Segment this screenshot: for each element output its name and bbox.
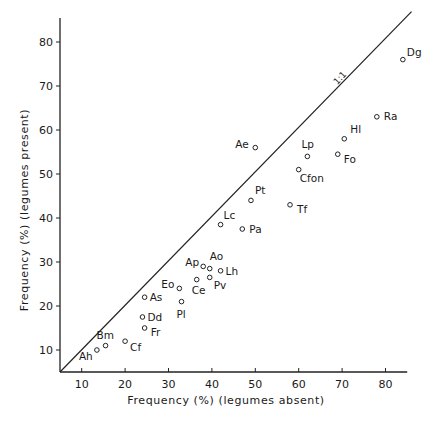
point-marker: [123, 339, 128, 344]
point-label: Ae: [235, 138, 248, 150]
y-tick-label: 20: [39, 300, 53, 313]
point-label: Fr: [151, 326, 161, 338]
point-marker: [177, 286, 182, 291]
point-label: As: [150, 291, 163, 303]
point-marker: [342, 137, 347, 142]
point-label: Pa: [249, 223, 261, 235]
chart-canvas: 10203040506070801020304050607080 1:1 AhB…: [0, 0, 436, 424]
y-tick-label: 50: [39, 168, 53, 181]
x-tick-label: 10: [75, 378, 89, 391]
data-point-bm: Bm: [97, 329, 114, 348]
point-label: Bm: [97, 329, 114, 341]
point-label: Dg: [407, 46, 422, 58]
x-tick-label: 50: [248, 378, 262, 391]
data-point-lh: Lh: [218, 265, 238, 277]
x-tick-label: 80: [379, 378, 393, 391]
y-tick-label: 70: [39, 80, 53, 93]
data-point-pt: Pt: [249, 184, 266, 202]
data-point-eo: Eo: [161, 278, 181, 290]
y-axis-label: Frequency (%) (legumes present): [18, 109, 31, 311]
data-point-tf: Tf: [288, 203, 308, 215]
point-label: Hl: [350, 123, 361, 135]
point-marker: [201, 264, 206, 269]
data-points: AhBmCfFrDdAsPlEoCePvApAoLhLcPaPtAeTfCfon…: [79, 46, 422, 362]
point-label: Ah: [79, 350, 93, 362]
data-point-cf: Cf: [123, 339, 142, 353]
point-marker: [249, 198, 254, 203]
x-tick-label: 40: [205, 378, 219, 391]
point-marker: [194, 277, 199, 282]
data-point-dd: Dd: [140, 311, 162, 323]
one-to-one-line: [60, 12, 412, 372]
point-marker: [218, 269, 223, 274]
data-point-fr: Fr: [142, 326, 161, 338]
scatter-chart: 10203040506070801020304050607080 1:1 AhB…: [0, 0, 436, 424]
point-marker: [288, 203, 293, 208]
y-tick-label: 10: [39, 344, 53, 357]
x-tick-label: 20: [118, 378, 132, 391]
point-marker: [253, 145, 258, 150]
point-marker: [207, 275, 212, 280]
point-marker: [335, 152, 340, 157]
one-to-one-label: 1:1: [331, 69, 348, 86]
point-label: Tf: [296, 203, 307, 215]
x-tick-label: 30: [162, 378, 176, 391]
point-label: Dd: [147, 311, 162, 323]
point-marker: [218, 222, 223, 227]
point-marker: [103, 343, 108, 348]
reference-line-1-1: 1:1: [60, 12, 412, 372]
data-point-dg: Dg: [401, 46, 422, 62]
data-point-pl: Pl: [177, 299, 186, 319]
point-label: Pl: [177, 308, 186, 320]
x-tick-label: 70: [335, 378, 349, 391]
point-marker: [401, 57, 406, 62]
point-marker: [142, 326, 147, 331]
data-point-lc: Lc: [218, 209, 235, 227]
point-marker: [142, 295, 147, 300]
point-marker: [240, 227, 245, 232]
data-point-ae: Ae: [235, 138, 257, 150]
point-label: Cfon: [300, 172, 324, 184]
point-marker: [179, 299, 184, 304]
point-label: Lp: [301, 138, 314, 150]
point-label: Ap: [185, 256, 199, 268]
point-label: Lc: [224, 209, 236, 221]
y-tick-label: 30: [39, 256, 53, 269]
point-label: Eo: [161, 278, 174, 290]
y-tick-label: 80: [39, 36, 53, 49]
y-tick-label: 60: [39, 124, 53, 137]
point-marker: [140, 315, 145, 320]
point-marker: [207, 266, 212, 271]
point-marker: [375, 115, 380, 120]
data-point-ap: Ap: [185, 256, 205, 268]
point-label: Ce: [192, 284, 206, 296]
data-point-pa: Pa: [240, 223, 262, 235]
y-tick-label: 40: [39, 212, 53, 225]
point-label: Lh: [226, 265, 239, 277]
data-point-fo: Fo: [335, 152, 355, 165]
data-point-ce: Ce: [192, 277, 206, 295]
data-point-ao: Ao: [207, 250, 223, 271]
data-point-hl: Hl: [342, 123, 361, 141]
data-point-ra: Ra: [375, 110, 398, 122]
data-point-pv: Pv: [207, 275, 226, 291]
data-point-as: As: [142, 291, 162, 303]
point-marker: [305, 154, 310, 159]
point-marker: [95, 348, 100, 353]
data-point-ah: Ah: [79, 348, 99, 362]
data-point-cfon: Cfon: [296, 167, 323, 183]
point-label: Cf: [130, 341, 141, 353]
x-axis-label: Frequency (%) (legumes absent): [127, 394, 324, 407]
point-label: Ra: [384, 110, 398, 122]
x-tick-label: 60: [292, 378, 306, 391]
point-label: Pt: [255, 184, 265, 196]
point-label: Pv: [214, 279, 227, 291]
data-point-lp: Lp: [301, 138, 314, 158]
point-label: Ao: [210, 250, 223, 262]
point-label: Fo: [344, 153, 356, 165]
